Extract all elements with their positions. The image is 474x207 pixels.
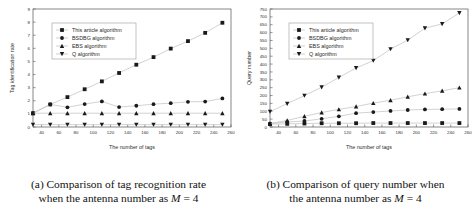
y-tick-label: 7 bbox=[28, 33, 31, 38]
data-marker-triangle-down bbox=[457, 11, 461, 15]
x-tick-label: 200 bbox=[413, 130, 421, 135]
data-marker-square bbox=[320, 121, 324, 125]
x-tick-label: 40 bbox=[276, 130, 281, 135]
figure-container: 0123456789406080100120140160180200220240… bbox=[0, 0, 474, 207]
y-tick-label: 750 bbox=[260, 7, 268, 12]
data-marker-square bbox=[83, 87, 87, 91]
chart-b-plot-area: 0501001502002503003504004505005506006507… bbox=[237, 0, 474, 158]
legend-label-1: BSDBG algorithm bbox=[309, 35, 352, 41]
legend-label-0: This article algorithm bbox=[309, 27, 359, 33]
caption-a: (a) Comparison of tag recognition rate w… bbox=[0, 178, 237, 206]
x-tick-label: 260 bbox=[464, 130, 472, 135]
caption-a-line2: when the antenna number as M = 4 bbox=[0, 192, 237, 206]
legend-label-3: Q algorithm bbox=[309, 51, 337, 57]
y-tick-label: 300 bbox=[260, 77, 268, 82]
x-tick-label: 220 bbox=[430, 130, 438, 135]
caption-b: (b) Comparison of query number when the … bbox=[237, 178, 474, 206]
x-axis-label: The number of tags bbox=[346, 144, 392, 150]
y-tick-label: 4 bbox=[28, 72, 31, 77]
x-tick-label: 240 bbox=[447, 130, 455, 135]
data-marker-circle bbox=[303, 119, 307, 123]
x-tick-label: 200 bbox=[176, 130, 184, 135]
x-tick-label: 180 bbox=[395, 130, 403, 135]
y-tick-label: 0 bbox=[28, 125, 31, 130]
series-line-1 bbox=[270, 109, 459, 124]
data-marker-triangle-down bbox=[268, 110, 272, 114]
data-marker-square bbox=[60, 28, 64, 32]
x-tick-label: 60 bbox=[56, 130, 61, 135]
y-tick-label: 5 bbox=[28, 59, 31, 64]
data-marker-square bbox=[389, 121, 393, 125]
data-marker-square bbox=[371, 121, 375, 125]
data-marker-circle bbox=[117, 105, 121, 109]
data-marker-circle bbox=[220, 97, 224, 101]
data-marker-square bbox=[297, 28, 301, 32]
caption-b-line2: the antenna number as M = 4 bbox=[237, 192, 474, 206]
x-tick-label: 80 bbox=[311, 130, 316, 135]
data-marker-circle bbox=[186, 100, 190, 104]
y-tick-label: 100 bbox=[260, 109, 268, 114]
data-marker-square bbox=[423, 121, 427, 125]
y-axis-label: Query number bbox=[246, 51, 252, 85]
x-tick-label: 220 bbox=[193, 130, 201, 135]
data-marker-circle bbox=[406, 108, 410, 112]
chart-b-svg: 0501001502002503003504004505005506006507… bbox=[237, 0, 474, 158]
x-tick-label: 180 bbox=[158, 130, 166, 135]
y-tick-label: 150 bbox=[260, 101, 268, 106]
y-tick-label: 9 bbox=[28, 7, 31, 12]
x-tick-label: 120 bbox=[344, 130, 352, 135]
x-tick-label: 160 bbox=[141, 130, 149, 135]
caption-b-line1: (b) Comparison of query number when bbox=[237, 178, 474, 192]
chart-a-plot-area: 0123456789406080100120140160180200220240… bbox=[0, 0, 237, 158]
y-tick-label: 2 bbox=[28, 98, 31, 103]
y-tick-label: 400 bbox=[260, 62, 268, 67]
series-line-2 bbox=[270, 88, 459, 124]
chart-a-svg: 0123456789406080100120140160180200220240… bbox=[0, 0, 237, 158]
x-tick-label: 160 bbox=[378, 130, 386, 135]
data-marker-circle bbox=[48, 103, 52, 107]
data-marker-triangle-down bbox=[354, 66, 358, 70]
y-tick-label: 350 bbox=[260, 70, 268, 75]
data-marker-circle bbox=[371, 110, 375, 114]
caption-b-line2-pre: the antenna number as bbox=[289, 192, 391, 204]
legend-label-0: This article algorithm bbox=[72, 27, 122, 33]
data-marker-square bbox=[186, 39, 190, 43]
data-marker-circle bbox=[100, 100, 104, 104]
x-tick-label: 140 bbox=[124, 130, 132, 135]
y-tick-label: 8 bbox=[28, 20, 31, 25]
panel-b: 0501001502002503003504004505005506006507… bbox=[237, 0, 474, 207]
x-tick-label: 40 bbox=[39, 130, 44, 135]
y-tick-label: 500 bbox=[260, 46, 268, 51]
data-marker-circle bbox=[152, 102, 156, 106]
caption-a-variable: M bbox=[171, 192, 181, 204]
x-tick-label: 120 bbox=[107, 130, 115, 135]
data-marker-triangle-down bbox=[406, 38, 410, 42]
x-tick-label: 80 bbox=[74, 130, 79, 135]
data-marker-triangle-down bbox=[371, 59, 375, 63]
data-marker-circle bbox=[60, 36, 64, 40]
data-marker-circle bbox=[440, 107, 444, 111]
series-line-0 bbox=[270, 123, 459, 124]
legend-label-2: EBS algorithm bbox=[72, 43, 107, 49]
x-tick-label: 60 bbox=[293, 130, 298, 135]
data-marker-circle bbox=[297, 36, 301, 40]
panel-a: 0123456789406080100120140160180200220240… bbox=[0, 0, 237, 207]
data-marker-square bbox=[66, 95, 70, 99]
series-line-1 bbox=[33, 98, 222, 113]
x-tick-label: 260 bbox=[227, 130, 235, 135]
data-marker-square bbox=[100, 79, 104, 83]
data-marker-circle bbox=[457, 107, 461, 111]
data-marker-square bbox=[220, 21, 224, 25]
data-marker-square bbox=[169, 47, 173, 51]
data-marker-square bbox=[152, 55, 156, 59]
data-marker-square bbox=[457, 121, 461, 125]
y-tick-label: 200 bbox=[260, 93, 268, 98]
y-tick-label: 0 bbox=[265, 125, 268, 130]
y-axis-label: Tag identification rate bbox=[9, 43, 15, 93]
y-tick-label: 1 bbox=[28, 111, 31, 116]
x-tick-label: 100 bbox=[90, 130, 98, 135]
data-marker-circle bbox=[66, 105, 70, 109]
data-marker-square bbox=[354, 121, 358, 125]
y-tick-label: 700 bbox=[260, 14, 268, 19]
legend-label-2: EBS algorithm bbox=[309, 43, 344, 49]
